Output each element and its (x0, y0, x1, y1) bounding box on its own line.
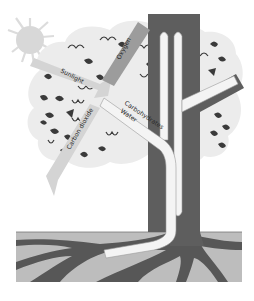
photosynthesis-diagram: Sunlight Oxygen Carbon dioxide Carbohydr… (0, 0, 254, 301)
